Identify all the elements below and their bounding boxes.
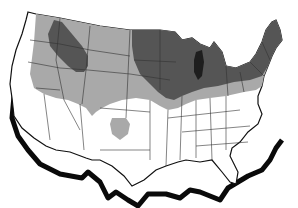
us-map [0, 0, 298, 208]
us-map-figure [0, 0, 298, 208]
